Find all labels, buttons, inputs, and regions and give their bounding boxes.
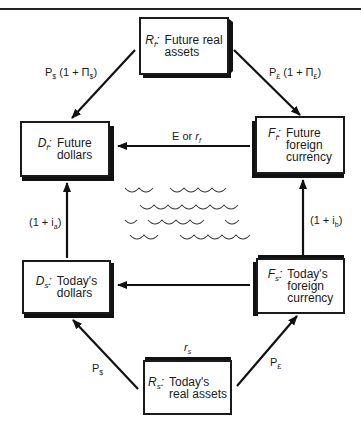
node-label: Future foreign currency [286, 127, 332, 163]
edge-label-fs-to-ff: (1 + ib) [310, 214, 342, 228]
node-todays-foreign-currency: Fs: Today's foreign currency [256, 258, 345, 314]
node-symbol: Fs: [268, 268, 283, 285]
node-label: Today's dollars [57, 275, 97, 299]
node-symbol: Ff: [268, 127, 281, 144]
edge-label-rf-to-df: P$ (1 + Π$) [45, 66, 97, 80]
edge-label-rs-to-ds: P$ [92, 362, 103, 376]
edge-label-ff-to-df: E or rf [172, 130, 201, 144]
node-label: Future dollars [57, 137, 92, 161]
edge-label-rs-top: rs [184, 341, 191, 355]
node-todays-real-assets: Rs: Today's real assets [143, 360, 232, 415]
node-symbol: Ds: [36, 275, 52, 292]
node-future-dollars: Df: Future dollars [20, 121, 110, 177]
edge-label-ds-to-df: (1 + ia) [29, 216, 61, 230]
node-label: Today's real assets [169, 376, 227, 400]
waves-decoration [125, 188, 250, 239]
node-symbol: Rs: [148, 376, 164, 393]
node-todays-dollars: Ds: Today's dollars [22, 260, 111, 314]
node-label: Today's foreign currency [287, 268, 333, 304]
node-symbol: Df: [38, 137, 52, 154]
edge-label-rs-to-fs: P£ [270, 356, 281, 370]
node-label: Future real assets [165, 34, 223, 58]
edge-label-rf-to-ff: P£ (1 + Π£) [269, 66, 321, 80]
node-future-foreign-currency: Ff: Future foreign currency [255, 116, 345, 174]
node-symbol: Rf: [145, 34, 159, 51]
node-future-real-assets: Rf: Future real assets [139, 17, 229, 75]
